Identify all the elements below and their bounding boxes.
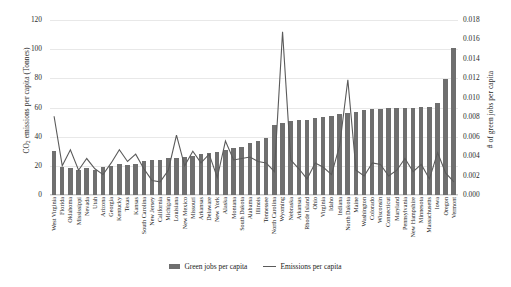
x-label-slot: South Carolina <box>140 197 148 253</box>
x-axis-label: Nebraska <box>288 197 294 220</box>
x-axis-label: Montana <box>230 197 236 219</box>
legend-label-green-jobs: Green jobs per capita <box>184 262 247 271</box>
y-axis-right-ticks: 0.0000.0020.0040.0060.0080.0100.0120.014… <box>461 20 491 195</box>
x-label-slot: Alaska <box>221 197 229 253</box>
x-axis-label: Maine <box>353 197 359 213</box>
legend-label-emissions: Emissions per capita <box>280 262 341 271</box>
x-label-slot: Iowa <box>433 197 441 253</box>
x-axis-label: Pennsylvania <box>402 197 408 230</box>
x-axis-label: Washington <box>361 197 367 226</box>
x-label-slot: Pennsylvania <box>401 197 409 253</box>
x-label-slot: Illinois <box>254 197 262 253</box>
y-tick-right: 0.008 <box>463 113 480 120</box>
y-tick-left: 100 <box>31 45 42 52</box>
x-axis-label: Massachusetts <box>426 197 432 233</box>
x-label-slot: Montana <box>229 197 237 253</box>
x-axis-label: Wisconsin <box>377 197 383 223</box>
x-axis-label: Delaware <box>206 197 212 221</box>
line-swatch-icon <box>263 266 276 268</box>
x-axis-label: Arkansas <box>198 197 204 220</box>
x-label-slot: Mississippi <box>74 197 82 253</box>
plot-area <box>50 20 458 195</box>
x-label-slot: Delaware <box>205 197 213 253</box>
x-label-slot: Oregon <box>442 197 450 253</box>
x-axis-label: Arkansas <box>296 197 302 220</box>
y-tick-right: 0.018 <box>463 16 480 23</box>
x-label-slot: Nebraska <box>287 197 295 253</box>
x-axis-label: Indiana <box>336 197 342 216</box>
x-label-slot: Arkansas <box>295 197 303 253</box>
x-axis-label: Oklahoma <box>67 197 73 223</box>
y-tick-right: 0.012 <box>463 74 480 81</box>
x-axis-label: Missouri <box>190 197 196 219</box>
x-axis-label: New York <box>214 197 220 222</box>
chart-container: CO2 emissions per capita (Tonnes) # of g… <box>0 0 511 287</box>
x-label-slot: Missouri <box>189 197 197 253</box>
x-axis-label: Florida <box>59 197 65 215</box>
y-tick-right: 0.010 <box>463 94 480 101</box>
x-axis-label: Ohio <box>312 197 318 209</box>
x-label-slot: Wyoming <box>278 197 286 253</box>
x-axis-label: New Hampshire <box>410 197 416 237</box>
x-label-slot: Nevada <box>83 197 91 253</box>
y-tick-left: 20 <box>35 162 42 169</box>
x-label-slot: Arizona <box>99 197 107 253</box>
y-tick-right: 0.006 <box>463 133 480 140</box>
x-axis-label: Louisiana <box>173 197 179 221</box>
x-axis-label: North Carolina <box>271 197 277 234</box>
x-label-slot: Idaho <box>327 197 335 253</box>
emissions-polyline <box>54 32 454 182</box>
x-axis-label: Arizona <box>100 197 106 217</box>
y-tick-left: 0 <box>38 191 42 198</box>
chart-legend: Green jobs per capita Emissions per capi… <box>0 262 511 271</box>
line-series-emissions <box>50 20 458 195</box>
x-label-slot: Utah <box>91 197 99 253</box>
y-axis-left-ticks: 020406080100120 <box>14 20 44 195</box>
y-tick-left: 80 <box>35 74 42 81</box>
x-axis-label: Mississippi <box>75 197 81 225</box>
y-tick-left: 40 <box>35 133 42 140</box>
x-label-slot: South Dakota <box>238 197 246 253</box>
x-axis-label: Texas <box>124 197 130 211</box>
legend-item-emissions: Emissions per capita <box>263 262 341 271</box>
x-axis-label: South Dakota <box>239 197 245 231</box>
x-axis-label: Georgia <box>108 197 114 217</box>
x-label-slot: Maryland <box>393 197 401 253</box>
x-axis-label: Utah <box>92 197 98 209</box>
x-axis-label: Illinois <box>255 197 261 215</box>
x-axis-label: California <box>157 197 163 222</box>
x-axis-label: South Carolina <box>141 197 147 234</box>
x-axis-labels: West VirginiaFloridaOklahomaMississippiN… <box>50 197 458 253</box>
x-axis-label: West Virginia <box>51 197 57 231</box>
x-axis-label: Nevada <box>84 197 90 216</box>
x-axis-label: Kansas <box>133 197 139 215</box>
bar-swatch-icon <box>169 264 180 269</box>
x-label-slot: Washington <box>360 197 368 253</box>
x-label-slot: New Mexico <box>181 197 189 253</box>
x-label-slot: Oklahoma <box>66 197 74 253</box>
x-axis-label: Colorado <box>369 197 375 220</box>
y-tick-right: 0.014 <box>463 55 480 62</box>
x-label-slot: Indiana <box>335 197 343 253</box>
y-tick-right: 0.002 <box>463 172 480 179</box>
x-axis-label: Kentucky <box>116 197 122 221</box>
x-axis-label: Michigan <box>165 197 171 221</box>
x-label-slot: Kansas <box>132 197 140 253</box>
x-axis-label: Vermont <box>451 197 457 218</box>
x-axis-label: Connecticut <box>385 197 391 227</box>
y-tick-right: 0.000 <box>463 191 480 198</box>
x-axis-label: Virginia <box>320 197 326 217</box>
y-tick-left: 120 <box>31 16 42 23</box>
x-axis-label: Maryland <box>394 197 400 221</box>
x-axis-label: New Mexico <box>181 197 187 229</box>
x-label-slot: Arkansas <box>197 197 205 253</box>
x-label-slot: New Jersey <box>148 197 156 253</box>
x-axis-label: Minnesota <box>418 197 424 223</box>
x-label-slot: Texas <box>123 197 131 253</box>
x-label-slot: Rhode Island <box>303 197 311 253</box>
x-label-slot: Louisiana <box>172 197 180 253</box>
x-axis-label: North Dakota <box>345 197 351 231</box>
x-axis-label: New Jersey <box>149 197 155 226</box>
x-axis-label: Idaho <box>328 197 334 211</box>
y-tick-right: 0.016 <box>463 35 480 42</box>
